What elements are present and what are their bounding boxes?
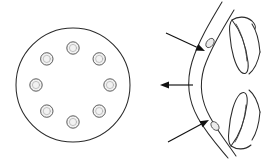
lower-cusp-tip	[231, 145, 251, 149]
pore-circle-8	[41, 53, 53, 65]
upper-leaflet-outer	[230, 20, 249, 74]
upper-arrow-shaft	[166, 33, 197, 47]
pore-ring-group	[30, 42, 116, 128]
lower-arrow-head	[199, 120, 209, 127]
lower-nodule	[209, 120, 220, 132]
lower-commissure-line	[252, 112, 260, 140]
upper-leaflet-inner	[236, 24, 247, 61]
lower-arrow-shaft	[168, 124, 201, 142]
lower-leaflet-outer	[229, 92, 248, 146]
middle-arrow-head	[160, 82, 169, 89]
right-panel-sagittal-section	[160, 2, 260, 158]
line-drawing-figure	[0, 0, 268, 164]
pore-circle-3	[104, 79, 116, 91]
left-panel-cross-section	[16, 28, 130, 142]
lower-arrow	[168, 120, 209, 142]
lower-hinge-stem	[249, 90, 260, 112]
figure-container	[0, 0, 268, 164]
upper-arrow-head	[195, 44, 205, 51]
lower-leaflet-inner	[235, 105, 246, 142]
upper-cusp-tip	[232, 17, 255, 29]
anterior-inner-contour	[201, 10, 236, 156]
upper-hinge-stem	[249, 52, 260, 74]
upper-nodule	[204, 37, 216, 49]
pore-circle-7	[30, 79, 42, 91]
anterior-outer-contour	[189, 2, 228, 158]
upper-commissure-line	[252, 24, 260, 52]
pore-circle-5	[67, 116, 79, 128]
pore-circle-6	[41, 105, 53, 117]
pore-circle-2	[93, 53, 105, 65]
upper-arrow	[166, 33, 205, 51]
middle-arrow	[160, 82, 193, 89]
pore-circle-1	[67, 42, 79, 54]
pore-circle-4	[93, 105, 105, 117]
nodule-group	[204, 37, 221, 132]
